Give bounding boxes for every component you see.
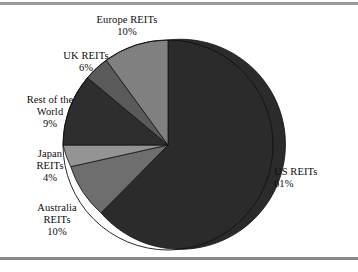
pie-label-rest-of-world-name-2: World bbox=[2, 106, 98, 118]
pie-label-europe-name: Europe REITs bbox=[68, 14, 186, 26]
bottom-rule-divider bbox=[0, 257, 358, 260]
pie-label-rest-of-world-value: 9% bbox=[2, 118, 98, 130]
pie-label-uk-name: UK REITs bbox=[36, 50, 136, 62]
pie-label-japan-name-1: Japan bbox=[10, 148, 90, 160]
pie-label-australia-name-2: REITs bbox=[8, 214, 106, 226]
pie-label-australia: Australia REITs 10% bbox=[8, 202, 106, 237]
top-rule-divider bbox=[0, 2, 358, 5]
pie-label-us-name: US REITs bbox=[274, 166, 356, 178]
pie-label-uk-value: 6% bbox=[36, 62, 136, 74]
pie-label-japan-name-2: REITs bbox=[10, 160, 90, 172]
pie-label-australia-name-1: Australia bbox=[8, 202, 106, 214]
pie-label-us: US REITs 61% bbox=[274, 166, 356, 190]
pie-label-rest-of-world-name-1: Rest of the bbox=[2, 94, 98, 106]
pie-label-japan: Japan REITs 4% bbox=[10, 148, 90, 183]
pie-label-rest-of-world: Rest of the World 9% bbox=[2, 94, 98, 129]
pie-chart: Europe REITs 10% UK REITs 6% Rest of the… bbox=[0, 6, 358, 256]
pie-label-japan-value: 4% bbox=[10, 172, 90, 184]
pie-label-europe: Europe REITs 10% bbox=[68, 14, 186, 38]
figure-frame: Europe REITs 10% UK REITs 6% Rest of the… bbox=[0, 0, 358, 272]
pie-label-australia-value: 10% bbox=[8, 226, 106, 238]
pie-label-uk: UK REITs 6% bbox=[36, 50, 136, 74]
pie-label-us-value: 61% bbox=[274, 178, 356, 190]
pie-label-europe-value: 10% bbox=[68, 26, 186, 38]
